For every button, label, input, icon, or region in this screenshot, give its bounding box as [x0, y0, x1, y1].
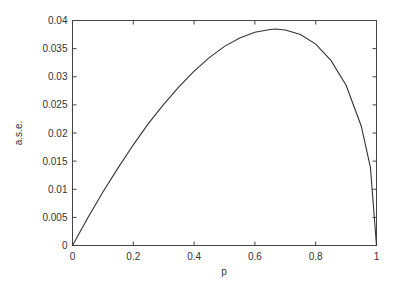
y-tick-label: 0 [62, 240, 68, 251]
x-axis-label: p [221, 266, 227, 277]
plot-frame [73, 21, 377, 246]
y-tick-label: 0.035 [42, 43, 67, 54]
y-tick-label: 0.015 [42, 156, 67, 167]
y-tick-label: 0.01 [48, 184, 68, 195]
y-axis-label: a.s.e. [13, 121, 24, 145]
x-tick-label: 0.6 [248, 251, 262, 262]
x-axis: 00.20.40.60.81 [70, 21, 380, 262]
y-tick-label: 0.025 [42, 99, 67, 110]
x-tick-label: 0 [70, 251, 76, 262]
x-tick-label: 0.4 [187, 251, 201, 262]
x-tick-label: 0.2 [126, 251, 140, 262]
y-tick-label: 0.03 [48, 71, 68, 82]
x-tick-label: 1 [374, 251, 380, 262]
y-tick-label: 0.005 [42, 212, 67, 223]
line-chart: 00.0050.010.0150.020.0250.030.0350.04 00… [0, 0, 397, 286]
y-axis: 00.0050.010.0150.020.0250.030.0350.04 [42, 15, 376, 251]
data-line [73, 29, 377, 246]
x-tick-label: 0.8 [309, 251, 323, 262]
y-tick-label: 0.04 [48, 15, 68, 26]
y-tick-label: 0.02 [48, 128, 68, 139]
